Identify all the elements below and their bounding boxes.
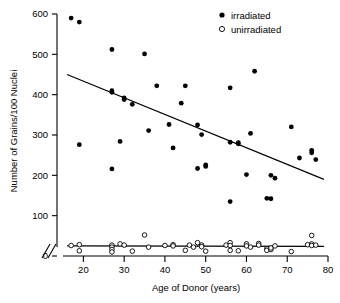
data-point-unirradiated (289, 249, 294, 254)
data-point-irradiated (146, 128, 151, 133)
x-axis-title: Age of Donor (years) (152, 282, 240, 293)
data-point-irradiated (269, 196, 274, 201)
data-point-unirradiated (199, 244, 204, 249)
data-point-irradiated (77, 20, 82, 25)
data-point-irradiated (122, 97, 127, 102)
data-point-unirradiated (313, 243, 318, 248)
series-unirradiated-points (69, 233, 318, 255)
data-point-irradiated (110, 47, 115, 52)
data-point-irradiated (273, 176, 278, 181)
legend-label-irradiated: irradiated (231, 10, 271, 21)
irradiated-fit (67, 75, 324, 180)
data-point-unirradiated (142, 233, 147, 238)
data-point-irradiated (297, 156, 302, 161)
data-point-irradiated (244, 172, 249, 177)
data-point-irradiated (130, 102, 135, 107)
data-point-unirradiated (256, 243, 261, 248)
y-tick-label: 300 (32, 129, 48, 140)
data-point-irradiated (313, 157, 318, 162)
x-tick-label: 40 (160, 264, 171, 275)
data-point-unirradiated (171, 244, 176, 249)
data-point-unirradiated (228, 243, 233, 248)
data-point-irradiated (154, 83, 159, 88)
data-point-irradiated (69, 16, 74, 21)
data-point-irradiated (179, 101, 184, 106)
data-point-irradiated (309, 150, 314, 155)
x-tick-label: 50 (200, 264, 211, 275)
y-tick-label: 200 (32, 170, 48, 181)
data-point-unirradiated (248, 245, 253, 250)
legend-label-unirradiated: unirradiated (231, 24, 281, 35)
data-point-unirradiated (77, 242, 82, 247)
data-point-irradiated (110, 90, 115, 95)
data-point-unirradiated (163, 243, 168, 248)
data-point-irradiated (269, 173, 274, 178)
x-tick-label: 30 (119, 264, 130, 275)
data-point-unirradiated (77, 248, 82, 253)
data-point-unirradiated (203, 249, 208, 254)
data-point-unirradiated (228, 248, 233, 253)
data-point-unirradiated (309, 233, 314, 238)
data-point-irradiated (264, 196, 269, 201)
scatter-plot-figure: 0100200300400500600 20304050607080 Age o… (0, 0, 340, 303)
x-axis-tick-marks (83, 256, 328, 262)
y-axis-tick-marks (52, 14, 57, 256)
x-tick-label: 60 (241, 264, 252, 275)
series-irradiated-points (69, 16, 318, 204)
data-point-unirradiated (191, 245, 196, 250)
legend-marker-unirradiated-icon (219, 26, 224, 31)
data-point-irradiated (142, 52, 147, 57)
data-point-unirradiated (273, 244, 278, 249)
regression-lines (67, 75, 324, 247)
y-axis-title: Number of Grains/100 Nuclei (8, 70, 19, 193)
data-point-irradiated (110, 166, 115, 171)
y-axis-tick-labels: 0100200300400500600 (32, 8, 48, 261)
y-tick-label: 400 (32, 89, 48, 100)
data-point-irradiated (77, 142, 82, 147)
legend-marker-irradiated-icon (219, 12, 224, 17)
data-point-irradiated (183, 83, 188, 88)
data-point-irradiated (118, 139, 123, 144)
data-point-unirradiated (236, 248, 241, 253)
data-point-irradiated (252, 69, 257, 74)
x-axis-tick-labels: 20304050607080 (78, 264, 333, 275)
data-point-irradiated (203, 164, 208, 169)
x-tick-label: 80 (323, 264, 334, 275)
y-tick-label: 500 (32, 49, 48, 60)
y-tick-label: 600 (32, 8, 48, 19)
data-point-irradiated (228, 199, 233, 204)
data-point-irradiated (195, 123, 200, 128)
y-tick-label: 100 (32, 210, 48, 221)
data-point-irradiated (171, 146, 176, 151)
plot-canvas: 0100200300400500600 20304050607080 Age o… (0, 0, 340, 303)
data-point-unirradiated (110, 250, 115, 255)
data-point-irradiated (167, 122, 172, 127)
data-point-irradiated (195, 166, 200, 171)
data-point-irradiated (199, 132, 204, 137)
data-point-irradiated (228, 140, 233, 145)
data-point-unirradiated (130, 249, 135, 254)
data-point-unirradiated (146, 245, 151, 250)
data-point-irradiated (228, 85, 233, 90)
data-point-irradiated (236, 141, 241, 146)
x-tick-label: 20 (78, 264, 89, 275)
data-point-unirradiated (122, 243, 127, 248)
data-point-unirradiated (69, 243, 74, 248)
x-tick-label: 70 (282, 264, 293, 275)
data-point-unirradiated (183, 248, 188, 253)
data-point-irradiated (248, 131, 253, 136)
legend: irradiated unirradiated (219, 10, 281, 35)
data-point-irradiated (289, 125, 294, 130)
